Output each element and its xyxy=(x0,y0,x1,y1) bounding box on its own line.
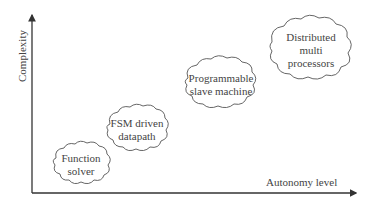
node-distributed-multi-processors: Distributed multi processors xyxy=(281,31,341,70)
node-function-solver: Function solver xyxy=(58,152,104,178)
node-line: Distributed xyxy=(281,31,341,44)
node-line: solver xyxy=(58,165,104,178)
node-line: FSM driven xyxy=(110,117,164,130)
node-line: multi xyxy=(281,44,341,57)
node-line: slave machine xyxy=(187,85,255,98)
y-axis-label: Complexity xyxy=(16,30,28,82)
node-line: processors xyxy=(281,57,341,70)
node-line: datapath xyxy=(110,130,164,143)
node-fsm-driven-datapath: FSM driven datapath xyxy=(110,117,164,143)
node-programmable-slave-machine: Programmable slave machine xyxy=(187,72,255,98)
x-axis-label: Autonomy level xyxy=(266,176,337,188)
node-line: Function xyxy=(58,152,104,165)
node-line: Programmable xyxy=(187,72,255,85)
